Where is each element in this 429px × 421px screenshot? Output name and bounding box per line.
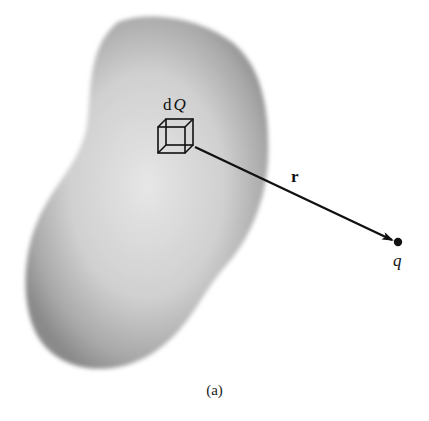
q-label: q [393, 251, 402, 270]
charge-distribution-diagram: dQ r q [0, 0, 429, 421]
point-charge-dot [394, 238, 402, 246]
dq-label: dQ [163, 95, 186, 114]
r-vector-label: r [291, 167, 299, 186]
figure-caption: (a) [0, 382, 429, 399]
charge-body-blob [26, 16, 269, 368]
